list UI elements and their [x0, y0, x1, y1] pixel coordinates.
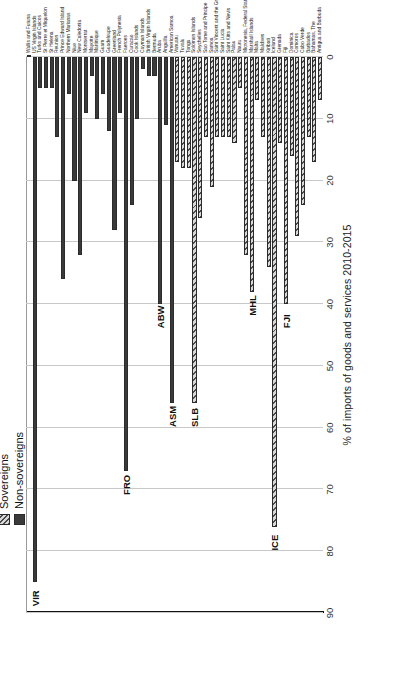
bar	[272, 57, 276, 527]
bar	[50, 57, 54, 88]
tick-label-70: 70	[324, 484, 335, 495]
bar	[101, 57, 105, 94]
annotation-mhl: MHL	[246, 295, 257, 316]
category-label: Bahamas, The	[312, 21, 317, 53]
bar	[175, 57, 179, 162]
bar	[290, 57, 294, 156]
category-label: Nauru	[238, 40, 243, 53]
rotated-figure-wrapper: Sovereigns Non-sovereigns FJIICEMHLSLBAS…	[0, 0, 415, 675]
category-label: Maldives	[261, 34, 266, 53]
bar	[67, 57, 71, 94]
category-label: Niue	[72, 43, 77, 53]
category-label: Samoa	[209, 38, 214, 54]
annotation-slb: SLB	[189, 408, 200, 427]
category-label: US Virgin Islands	[32, 16, 37, 53]
bar	[244, 57, 248, 255]
category-label: Kiribati	[266, 38, 271, 53]
annotation-ice: ICE	[269, 535, 280, 551]
bar	[301, 57, 305, 205]
category-label: Faeroes	[123, 35, 128, 53]
bar	[72, 57, 76, 181]
category-label: Wallis and Futuna	[26, 14, 31, 53]
category-label: Aruba	[158, 40, 163, 53]
bars-container	[26, 57, 323, 613]
bar	[255, 57, 259, 100]
bar	[187, 57, 191, 168]
category-label: Cook Islands	[135, 25, 140, 53]
category-label: Grenada	[278, 34, 283, 53]
category-label: Seychelles	[198, 29, 203, 53]
category-label: Bermuda	[152, 33, 157, 53]
category-label: Saint Lucia	[221, 29, 226, 53]
category-label: Barbados	[306, 32, 311, 53]
bar	[232, 57, 236, 143]
bar	[78, 57, 82, 255]
category-label: Vanuatu	[175, 35, 180, 53]
bar	[107, 57, 111, 131]
bar	[164, 57, 168, 125]
bar	[124, 57, 128, 471]
category-label: Comoros	[295, 33, 300, 53]
tick-label-50: 50	[324, 361, 335, 372]
tick-label-20: 20	[324, 175, 335, 186]
legend-label-nonsovereigns: Non-sovereigns	[13, 432, 25, 509]
bar	[192, 57, 196, 403]
bar	[312, 57, 316, 162]
chart-legend: Sovereigns Non-sovereigns	[0, 432, 28, 525]
bar	[284, 57, 288, 304]
category-axis-labels: Antigua and BarbudaBahamas, TheBarbadosC…	[26, 0, 323, 55]
bar	[112, 57, 116, 230]
bar	[238, 57, 242, 88]
category-label: Cayman Islands	[141, 18, 146, 53]
bar	[135, 57, 139, 119]
legend-item-sovereigns: Sovereigns	[0, 432, 10, 525]
tick-label-40: 40	[324, 299, 335, 310]
category-label: British Virgin Islands	[146, 9, 151, 53]
bar	[250, 57, 254, 292]
category-label: Montserrat	[84, 30, 89, 53]
category-label: Iceland	[272, 37, 277, 53]
bar	[278, 57, 282, 143]
annotation-abw: ABW	[155, 305, 166, 328]
bar	[181, 57, 185, 168]
bar	[90, 57, 94, 76]
category-label: Prince Edward Island	[61, 7, 66, 53]
tick-label-60: 60	[324, 422, 335, 433]
plot-area: FJIICEMHLSLBASMABWFROVIR	[26, 57, 323, 613]
category-label: Guam	[101, 40, 106, 53]
category-label: Reunion	[55, 35, 60, 53]
annotation-fro: FRO	[120, 475, 131, 495]
bar	[307, 57, 311, 137]
legend-swatch-nonsovereigns-icon	[14, 514, 25, 525]
value-axis-title: % of imports of goods and services 2010-…	[341, 57, 353, 613]
category-label: Anguilla	[163, 36, 168, 53]
legend-swatch-sovereigns-icon	[0, 514, 10, 525]
category-label: Marshall Islands	[249, 18, 254, 53]
bar	[38, 57, 42, 88]
category-label: Tonga	[186, 40, 191, 53]
bar	[61, 57, 65, 279]
category-label: St Pierre et Miquelon	[44, 7, 49, 53]
category-label: St Helena	[49, 32, 54, 53]
bar	[44, 57, 48, 88]
bar	[118, 57, 122, 113]
chart-canvas: Sovereigns Non-sovereigns FJIICEMHLSLBAS…	[0, 0, 415, 675]
bar	[55, 57, 59, 137]
category-label: Turks and Caicos	[38, 15, 43, 53]
category-label: Antigua and Barbuda	[318, 7, 323, 53]
legend-item-nonsovereigns: Non-sovereigns	[13, 432, 25, 525]
category-label: Greenland	[112, 30, 117, 53]
category-label: Cabo Verde	[301, 27, 306, 53]
category-label: Saint Kitts and Nevis	[226, 8, 231, 53]
category-label: Tuvalu	[181, 39, 186, 54]
bar	[84, 57, 88, 113]
bar	[152, 57, 156, 76]
tick-label-90: 90	[324, 608, 335, 619]
category-label: Malta	[255, 41, 260, 53]
category-label: Palau	[232, 40, 237, 53]
bar	[141, 57, 145, 69]
bar	[27, 55, 31, 57]
category-label: Fiji	[283, 47, 288, 53]
category-label: American Samoa	[169, 15, 174, 53]
bar	[198, 57, 202, 218]
